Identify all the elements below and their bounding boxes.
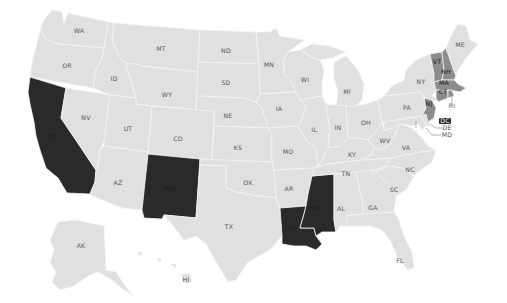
label-mo: MO <box>283 148 294 155</box>
label-co: CO <box>173 135 183 142</box>
label-ri: RI <box>449 102 456 109</box>
label-ky: KY <box>348 151 356 158</box>
label-va: VA <box>402 144 411 151</box>
label-ma: MA <box>439 79 450 86</box>
label-wv: WV <box>380 137 391 144</box>
state-ri[interactable] <box>448 90 454 98</box>
label-oh: OH <box>361 119 371 126</box>
label-ia: IA <box>276 105 283 112</box>
label-ne: NE <box>224 112 233 119</box>
label-ks: KS <box>234 144 242 151</box>
state-co[interactable] <box>148 106 214 160</box>
label-vt: VT <box>433 58 441 65</box>
label-nd: ND <box>221 47 231 54</box>
label-me: ME <box>455 41 465 48</box>
label-hi: HI <box>183 276 190 283</box>
label-de: DE <box>442 124 451 131</box>
label-nc: NC <box>405 166 414 173</box>
label-sc: SC <box>390 186 399 193</box>
label-ny: NY <box>417 78 426 85</box>
label-ct: CT <box>439 88 448 95</box>
label-mi: MI <box>343 88 351 95</box>
label-ca: CA <box>48 133 58 140</box>
label-la: LA <box>289 224 298 231</box>
label-tn: TN <box>341 170 351 177</box>
label-in: IN <box>335 124 342 131</box>
label-ga: GA <box>368 204 378 211</box>
label-ms: MS <box>310 205 320 212</box>
label-md: MD <box>442 131 453 138</box>
leader-line-de <box>430 124 443 128</box>
label-ar: AR <box>285 185 294 192</box>
label-al: AL <box>337 205 345 212</box>
label-id: ID <box>111 75 118 82</box>
label-nm: NM <box>165 185 175 192</box>
label-nj: NJ <box>426 100 433 108</box>
label-nh: NH <box>441 68 451 75</box>
label-il: IL <box>311 126 317 133</box>
label-ak: AK <box>77 242 86 249</box>
label-fl: FL <box>396 257 404 264</box>
label-or: OR <box>62 62 72 69</box>
label-wy: WY <box>162 91 172 98</box>
label-mn: MN <box>264 61 275 68</box>
label-ut: UT <box>124 125 133 132</box>
label-ok: OK <box>243 179 253 186</box>
label-nv: NV <box>81 114 91 121</box>
label-dc: DC <box>440 117 450 124</box>
label-tx: TX <box>224 223 234 230</box>
label-wa: WA <box>74 27 85 34</box>
label-az: AZ <box>114 179 123 186</box>
label-mt: MT <box>156 45 166 52</box>
label-sd: SD <box>221 79 230 86</box>
state-ak[interactable] <box>50 220 134 296</box>
us-choropleth-map: WA OR CA ID NV MT WY UT AZ CO NM ND SD N… <box>0 0 507 303</box>
label-wi: WI <box>301 76 309 83</box>
leader-line-md <box>426 128 441 135</box>
label-pa: PA <box>403 104 412 111</box>
state-wy[interactable] <box>126 64 198 110</box>
